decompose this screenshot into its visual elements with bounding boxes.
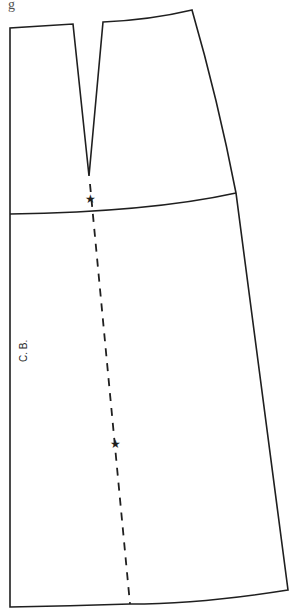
- star-marker-icon: ★: [85, 192, 96, 206]
- grainline-dashed: [90, 184, 130, 604]
- center-back-label: C. B.: [18, 340, 29, 362]
- pattern-outline: [10, 10, 288, 607]
- star-marker-icon: ★: [110, 437, 121, 451]
- skirt-pattern-diagram: g ★ ★ C. B.: [0, 0, 296, 614]
- cropped-caption-fragment: g: [8, 0, 15, 12]
- hip-line: [10, 193, 236, 214]
